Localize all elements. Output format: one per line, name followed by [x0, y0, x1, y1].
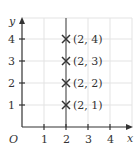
point-label: (2, 3) — [73, 55, 103, 68]
coordinate-plot: O x y 1 2 3 4 1 2 3 4 (2, 1) (2, 2) (2, … — [0, 0, 138, 151]
y-tick-label: 3 — [8, 55, 15, 68]
x-tick-label: 3 — [85, 133, 92, 146]
y-tick-label: 1 — [8, 99, 15, 112]
point-label: (2, 1) — [73, 99, 103, 112]
x-tick-label: 1 — [41, 133, 48, 146]
y-tick-label: 2 — [8, 77, 15, 90]
y-axis-label: y — [8, 15, 16, 28]
point-label: (2, 2) — [73, 77, 103, 90]
origin-label: O — [9, 133, 18, 146]
x-tick-label: 2 — [63, 133, 70, 146]
point-label: (2, 4) — [73, 33, 103, 46]
x-axis-label: x — [127, 132, 134, 145]
x-tick-label: 4 — [107, 133, 114, 146]
y-tick-label: 4 — [8, 33, 15, 46]
